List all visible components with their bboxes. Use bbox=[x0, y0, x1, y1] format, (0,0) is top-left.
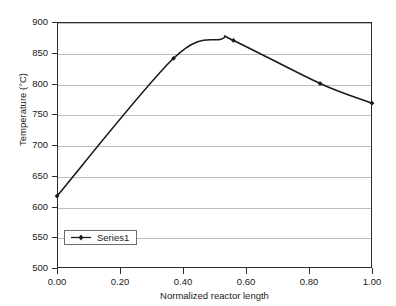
line-chart: 900 850 800 750 700 650 600 550 500 Temp… bbox=[0, 0, 396, 306]
y-axis-label: 650 bbox=[8, 171, 48, 181]
y-axis-label: 850 bbox=[8, 48, 48, 58]
x-axis-tick bbox=[309, 268, 310, 274]
y-axis-title: Temperature (°C) bbox=[17, 40, 28, 180]
y-axis-label: 900 bbox=[8, 17, 48, 27]
x-axis-tick bbox=[372, 268, 373, 274]
x-axis-label: 0.80 bbox=[289, 277, 329, 287]
y-axis-label: 550 bbox=[8, 232, 48, 242]
series-markers bbox=[55, 38, 375, 198]
x-axis-label: 0.00 bbox=[37, 277, 77, 287]
legend-marker-icon bbox=[70, 233, 92, 242]
legend-label: Series1 bbox=[97, 233, 129, 243]
x-axis-tick bbox=[57, 268, 58, 274]
legend[interactable]: Series1 bbox=[64, 230, 137, 245]
data-point-marker bbox=[231, 38, 236, 43]
x-axis-label: 0.40 bbox=[163, 277, 203, 287]
y-axis-label: 700 bbox=[8, 140, 48, 150]
y-axis-label: 750 bbox=[8, 109, 48, 119]
x-axis-label: 0.60 bbox=[226, 277, 266, 287]
series-path bbox=[57, 36, 372, 196]
x-axis-title: Normalized reactor length bbox=[57, 290, 372, 301]
x-axis-label: 0.20 bbox=[100, 277, 140, 287]
x-axis-tick bbox=[183, 268, 184, 274]
x-axis-tick bbox=[120, 268, 121, 274]
x-axis-label: 1.00 bbox=[352, 277, 392, 287]
y-axis-label: 800 bbox=[8, 79, 48, 89]
data-point-marker bbox=[370, 101, 375, 106]
x-axis-tick bbox=[246, 268, 247, 274]
data-point-marker bbox=[318, 81, 323, 86]
y-axis-label: 600 bbox=[8, 202, 48, 212]
y-axis-label: 500 bbox=[8, 263, 48, 273]
